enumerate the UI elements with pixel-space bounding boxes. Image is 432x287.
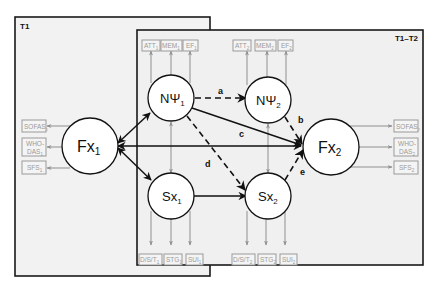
svg-text:WHO-: WHO-	[398, 140, 416, 147]
node-fx2: Fx2	[303, 119, 359, 175]
node-sx2: Sx2	[245, 173, 291, 219]
path-label-c: c	[239, 129, 244, 139]
indicator-stg2: STG2	[258, 254, 276, 265]
indicator-att2: ATT2	[233, 40, 251, 51]
indicator-ef1: EF1	[183, 40, 198, 51]
indicator-mem1: MEM1	[161, 40, 182, 51]
indicator-sfs1: SFS1	[22, 161, 46, 174]
indicator-ef2: EF2	[278, 40, 293, 51]
path-label-e: e	[300, 167, 305, 177]
indicator-sfs2: SFS2	[394, 161, 418, 174]
indicator-sui1: SUI1	[186, 254, 203, 265]
indicator-whodas1: WHO- DAS1	[22, 138, 46, 157]
node-sx1: Sx1	[148, 173, 194, 219]
node-npsi2: NΨ2	[245, 77, 291, 123]
indicator-sofas2: SOFAS2	[394, 120, 421, 132]
indicator-dst2: D/S/T2	[232, 254, 255, 265]
path-label-b: b	[298, 115, 304, 125]
path-label-d: d	[205, 159, 211, 169]
frame-t1-t2-label: T1–T2	[395, 34, 419, 43]
indicator-sui2: SUI2	[280, 254, 297, 265]
indicator-sofas1: SOFAS1	[22, 120, 49, 132]
indicator-dst1: D/S/T1	[139, 254, 162, 265]
indicator-whodas2: WHO- DAS2	[394, 138, 418, 157]
indicator-att1: ATT1	[142, 40, 160, 51]
indicator-stg1: STG1	[164, 254, 182, 265]
node-npsi1: NΨ1	[148, 75, 194, 121]
indicator-mem2: MEM2	[255, 40, 276, 51]
svg-text:WHO-: WHO-	[26, 140, 44, 147]
path-diagram: T1 T1–T2 ATT1	[0, 0, 432, 287]
frame-t1-label: T1	[20, 22, 30, 31]
node-fx1: Fx1	[62, 118, 118, 174]
